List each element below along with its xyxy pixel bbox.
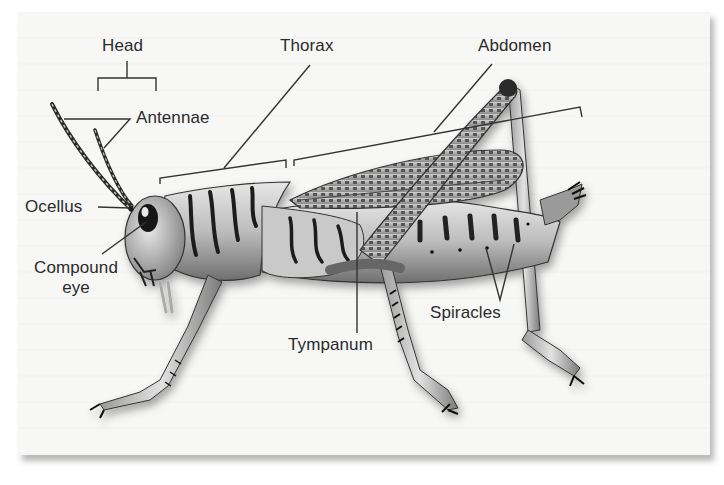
label-spiracles: Spiracles <box>430 303 501 323</box>
head-bracket <box>98 61 156 91</box>
label-compound-eye-line2: eye <box>25 278 127 298</box>
label-antennae: Antennae <box>136 108 210 128</box>
middle-leg <box>380 265 458 410</box>
ovipositor <box>540 184 582 225</box>
grasshopper-body <box>90 79 586 418</box>
label-head: Head <box>102 36 143 56</box>
ocellus-leader <box>98 207 130 208</box>
label-tympanum: Tympanum <box>288 335 373 355</box>
label-ocellus: Ocellus <box>25 197 82 217</box>
thorax-bracket <box>160 160 286 184</box>
compound-eye-shape <box>138 204 158 232</box>
ocellus-shape <box>129 207 134 212</box>
label-compound-eye-line1: Compound <box>25 258 127 278</box>
label-thorax: Thorax <box>280 36 334 56</box>
thorax-leader <box>224 65 310 168</box>
label-compound-eye: Compound eye <box>25 258 127 297</box>
label-abdomen: Abdomen <box>478 36 551 56</box>
grasshopper-illustration <box>0 0 724 485</box>
antennae <box>52 104 132 210</box>
